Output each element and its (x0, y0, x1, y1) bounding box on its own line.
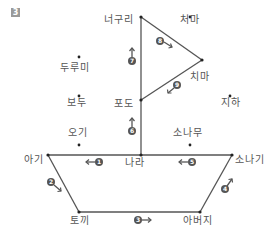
svg-text:2: 2 (49, 178, 53, 185)
svg-text:6: 6 (130, 127, 134, 134)
svg-text:3: 3 (136, 216, 140, 223)
step-6-marker: 6 (128, 118, 136, 135)
label-tokki: 토끼 (70, 215, 90, 227)
path-lines (48, 17, 232, 212)
svg-text:8: 8 (158, 37, 162, 44)
svg-text:4: 4 (223, 185, 227, 192)
svg-text:1: 1 (97, 158, 101, 165)
label-sonamu: 소나무 (173, 127, 203, 139)
label-nara: 나라 (125, 157, 145, 169)
label-agi: 아기 (24, 154, 44, 166)
svg-text:7: 7 (130, 57, 134, 64)
label-neoguri: 너구리 (104, 14, 134, 26)
vertex-dots (46, 15, 233, 213)
label-sonagi: 소나기 (235, 154, 265, 166)
label-durumi: 두루미 (60, 62, 90, 74)
label-bodu: 보두 (67, 97, 87, 109)
step-5-marker: 5 (179, 158, 196, 166)
step-2-marker: 2 (47, 178, 61, 192)
label-jiha: 지하 (221, 97, 241, 109)
step-8-marker: 8 (156, 37, 172, 48)
label-podo: 포도 (114, 98, 134, 110)
label-cheoma: 처마 (180, 14, 200, 26)
label-chima: 치마 (190, 71, 210, 83)
step-7-marker: 7 (128, 48, 136, 65)
path-diagram: 1 5 3 2 4 (0, 0, 276, 245)
step-9-marker: 9 (168, 81, 182, 93)
step-3-marker: 3 (134, 216, 151, 224)
label-abeoji: 아버지 (183, 215, 213, 227)
label-ogi: 오기 (68, 127, 88, 139)
step-1-marker: 1 (86, 158, 103, 166)
step-4-marker: 4 (221, 179, 233, 193)
svg-text:9: 9 (175, 81, 179, 88)
svg-text:5: 5 (190, 158, 194, 165)
